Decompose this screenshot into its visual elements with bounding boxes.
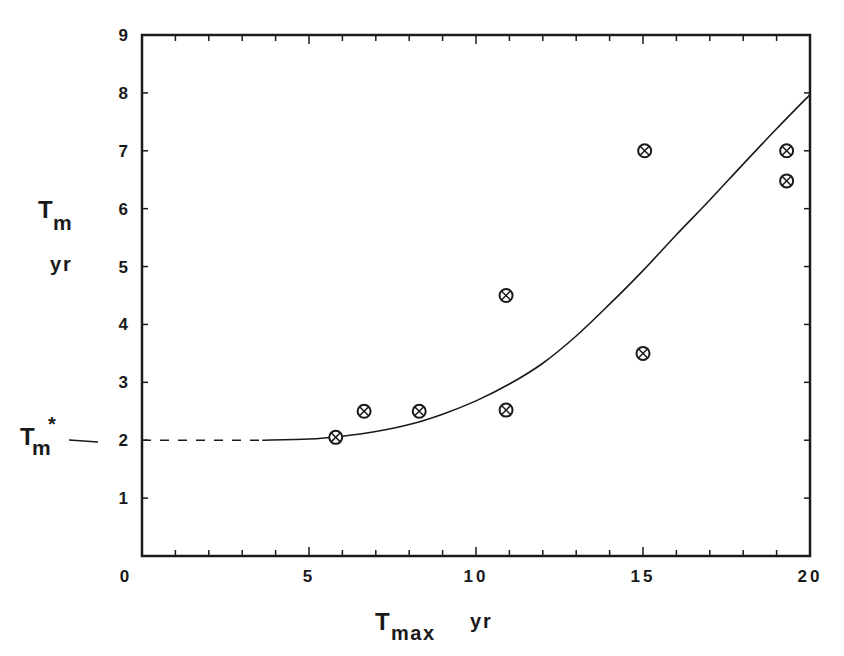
circled-x-marker-icon <box>413 405 426 418</box>
y-tick-label: 9 <box>119 26 128 45</box>
y-tick-label: 2 <box>119 431 128 450</box>
tm-star-annotation: T m * <box>20 413 98 459</box>
tm-star-label-sup: * <box>48 413 56 435</box>
y-axis-title-main: T <box>38 196 53 223</box>
x-tick-label: 20 <box>798 567 823 586</box>
y-tick-label: 5 <box>119 258 128 277</box>
y-axis-title-unit: yr <box>50 253 73 275</box>
x-tick-label: 15 <box>631 567 656 586</box>
y-tick-labels: 123456789 <box>119 26 129 508</box>
y-tick-label: 7 <box>119 142 128 161</box>
tm-star-leader-line <box>69 440 98 442</box>
x-tick-label: 10 <box>464 567 489 586</box>
tm-star-label-sub: m <box>32 436 51 459</box>
x-axis-title-sub: max <box>391 622 436 644</box>
model-curve-line <box>262 95 810 441</box>
plot-frame <box>142 35 810 556</box>
circled-x-marker-icon <box>637 347 650 360</box>
data-points <box>329 144 793 444</box>
circled-x-marker-icon <box>780 174 793 187</box>
x-axis-title-unit: yr <box>470 610 493 632</box>
x-tick-labels: 05101520 <box>120 567 823 586</box>
circled-x-marker-icon <box>638 144 651 157</box>
y-tick-label: 6 <box>119 200 128 219</box>
y-tick-label: 1 <box>119 489 128 508</box>
circled-x-marker-icon <box>500 404 513 417</box>
circled-x-marker-icon <box>358 405 371 418</box>
chart-canvas: 05101520 123456789 T m yr T m * T max yr <box>0 0 844 656</box>
y-tick-label: 4 <box>119 315 129 334</box>
x-axis-title: T max yr <box>375 608 493 644</box>
model-curves <box>142 95 810 441</box>
circled-x-marker-icon <box>329 431 342 444</box>
y-axis-title-sub: m <box>53 211 72 234</box>
y-axis-title: T m yr <box>38 196 73 275</box>
y-tick-label: 3 <box>119 373 128 392</box>
circled-x-marker-icon <box>780 144 793 157</box>
circled-x-marker-icon <box>500 289 513 302</box>
y-tick-label: 8 <box>119 84 128 103</box>
axis-ticks <box>142 35 810 556</box>
x-tick-label: 0 <box>120 567 132 586</box>
x-axis-title-main: T <box>375 608 390 635</box>
x-tick-label: 5 <box>303 567 315 586</box>
